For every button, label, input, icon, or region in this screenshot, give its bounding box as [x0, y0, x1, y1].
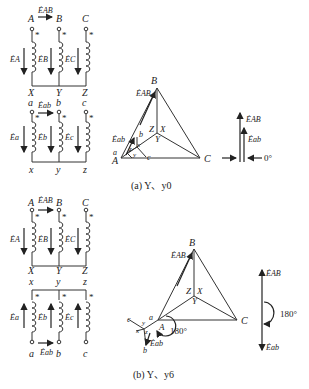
terminal-z: z	[82, 276, 87, 287]
sec-a: a	[149, 313, 153, 322]
neutral-Z: Z	[149, 124, 155, 134]
terminal-x: x	[28, 276, 34, 287]
ec-sec-label: Ėc	[64, 313, 74, 322]
terminal-A: A	[27, 197, 35, 208]
clock-eab-label: ĖAB	[245, 115, 261, 124]
ec-label: ĖC	[64, 235, 76, 244]
terminal-a: a	[29, 348, 34, 359]
clock-eab-sec-label: Ėab	[247, 135, 261, 144]
neutral-X: X	[196, 286, 203, 296]
caption-b: (b) Y、y6	[133, 369, 174, 381]
terminal-C: C	[82, 197, 89, 208]
vertex-B: B	[151, 75, 157, 86]
dot-mark: *	[35, 30, 40, 40]
eab-sec-label: Ėab	[39, 348, 53, 357]
terminal-x: x	[28, 164, 34, 175]
neutral-Y: Y	[155, 134, 161, 144]
sec-a: a	[113, 148, 117, 157]
ea-label: ĖA	[9, 235, 20, 244]
dot-mark: *	[62, 113, 67, 123]
primary-winding-a: A B C ĖAB * * * ĖA ĖB ĖC X Y Z	[9, 6, 94, 98]
transformer-connection-diagram: A B C ĖAB * * * ĖA ĖB ĖC X Y Z a	[0, 0, 309, 389]
terminal-c: c	[82, 97, 87, 108]
eb-label: ĖB	[37, 55, 48, 64]
dot-mark: *	[35, 212, 40, 222]
eab-sec-label: Ėab	[37, 101, 51, 110]
clock-angle: 0°	[264, 153, 273, 163]
phasor-eab-sec-label: Ėab	[149, 339, 163, 348]
sec-x: x	[135, 327, 140, 335]
neutral-X: X	[159, 124, 166, 134]
eb-sec-label: Ėb	[37, 313, 47, 322]
terminal-A: A	[27, 13, 35, 24]
dot-mark: *	[62, 212, 67, 222]
ea-label: ĖA	[9, 55, 20, 64]
panel-b-clock: ĖAB Ėab 180°	[262, 269, 298, 352]
vertex-C: C	[241, 315, 248, 326]
terminal-z: z	[82, 164, 87, 175]
terminal-y: y	[55, 276, 61, 287]
terminal-y: y	[55, 164, 61, 175]
ea-sec-label: Ėa	[9, 313, 19, 322]
eab-label: ĖAB	[37, 196, 53, 205]
dot-mark: *	[89, 292, 94, 302]
dot-mark: *	[35, 292, 40, 302]
phasor-angle: 180°	[170, 326, 188, 336]
clock-angle: 180°	[280, 309, 298, 319]
panel-a-phasor: B A C Z X Y ĖAB Ėab a b c x y z	[111, 75, 211, 166]
panel-a-clock: ĖAB Ėab 0°	[222, 113, 273, 163]
panel-b-phasor: B A C Z X Y ĖAB Ėab 180° a b c x y z	[127, 237, 248, 355]
vertex-C: C	[204, 153, 211, 164]
sec-z: z	[144, 328, 148, 336]
secondary-winding-a: a b c Ėab * * * Ėa Ėb Ėc x y z	[9, 97, 94, 175]
ea-sec-label: Ėa	[9, 133, 19, 142]
ec-label: ĖC	[64, 55, 76, 64]
panel-a-windings: A B C ĖAB * * * ĖA ĖB ĖC X Y Z a	[9, 6, 94, 175]
sec-z: z	[128, 145, 132, 153]
sec-y: y	[141, 319, 146, 327]
dot-mark: *	[62, 30, 67, 40]
phasor-eab-label: ĖAB	[135, 89, 151, 98]
terminal-circle-B	[57, 27, 61, 31]
vertex-A: A	[158, 322, 165, 332]
terminal-B: B	[56, 13, 62, 24]
vertex-B: B	[189, 237, 195, 248]
terminal-X: X	[27, 265, 35, 276]
phasor-eab-label: ĖAB	[170, 251, 186, 260]
terminal-a: a	[28, 97, 33, 108]
clock-eab-sec-label: Ėab	[265, 343, 279, 352]
neutral-Z: Z	[186, 286, 192, 296]
terminal-B: B	[56, 197, 62, 208]
terminal-c: c	[83, 348, 88, 359]
eb-sec-label: Ėb	[37, 133, 47, 142]
terminal-C: C	[82, 13, 89, 24]
eb-label: ĖB	[37, 235, 48, 244]
terminal-circle-A	[30, 27, 34, 31]
sec-b: b	[139, 130, 143, 139]
terminal-b: b	[56, 97, 61, 108]
dot-mark: *	[35, 113, 40, 123]
dot-mark: *	[62, 292, 67, 302]
sec-c: c	[147, 153, 151, 162]
terminal-circle-C	[84, 27, 88, 31]
terminal-Y: Y	[56, 265, 63, 276]
sec-b: b	[143, 346, 147, 355]
clock-eab-label: ĖAB	[265, 269, 281, 278]
ec-sec-label: Ėc	[64, 133, 74, 142]
caption-a: (a) Y、y0	[131, 180, 171, 192]
dot-mark: *	[89, 30, 94, 40]
dot-mark: *	[89, 212, 94, 222]
panel-b-windings: A B C ĖAB * * * ĖA ĖB ĖC X Y Z x y z * *…	[9, 196, 94, 359]
terminal-Z: Z	[82, 265, 88, 276]
phasor-eab-sec-label: Ėab	[111, 135, 125, 144]
terminal-b: b	[56, 348, 61, 359]
sec-c: c	[127, 315, 131, 324]
dot-mark: *	[89, 113, 94, 123]
eab-label: ĖAB	[37, 6, 53, 15]
